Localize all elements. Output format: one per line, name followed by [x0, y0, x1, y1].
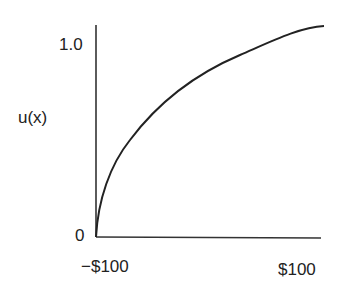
- x-axis: [96, 237, 321, 238]
- y-tick-bottom: 0: [75, 227, 84, 244]
- utility-curve: [96, 26, 324, 237]
- utility-chart: [0, 0, 348, 289]
- x-tick-right: $100: [278, 261, 316, 278]
- x-tick-left: −$100: [81, 258, 129, 275]
- y-axis-label: u(x): [18, 109, 47, 126]
- y-tick-top: 1.0: [59, 36, 83, 53]
